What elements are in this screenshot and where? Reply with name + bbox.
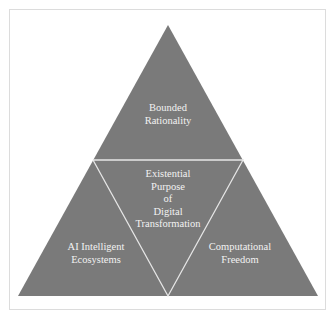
segment-center-label: Existential Purpose of Digital Transform… [136, 168, 201, 231]
segment-top-label: Bounded Rationality [145, 102, 192, 127]
triangle-diagram [0, 0, 336, 321]
segment-bottom-left-label: AI Intelligent Ecosystems [68, 241, 125, 266]
segment-bottom-right-label: Computational Freedom [209, 241, 271, 266]
